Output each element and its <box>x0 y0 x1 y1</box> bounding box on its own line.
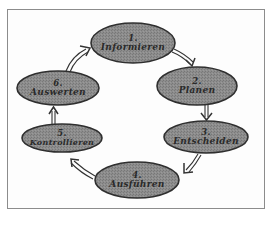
node-label: Ausführen <box>109 180 164 189</box>
node-ausfuehren: 4. Ausführen <box>95 163 179 197</box>
node-label: Auswerten <box>30 88 86 97</box>
node-auswerten: 6. Auswerten <box>17 72 99 104</box>
node-label: Kontrollieren <box>30 138 94 146</box>
node-label: Entscheiden <box>173 137 239 146</box>
arrow-kontrollieren-to-auswerten <box>49 107 58 124</box>
node-label: Informieren <box>101 43 165 52</box>
arrow-entscheiden-to-ausfuehren <box>184 154 201 173</box>
node-kontrollieren: 5. Kontrollieren <box>22 125 102 151</box>
node-label: Planen <box>179 86 216 95</box>
arrow-ausfuehren-to-kontrollieren <box>71 159 95 179</box>
node-informieren: 1. Informieren <box>91 25 175 61</box>
arrow-informieren-to-planen <box>172 49 195 66</box>
node-entscheiden: 3. Entscheiden <box>164 122 248 152</box>
arrow-planen-to-entscheiden <box>201 105 212 120</box>
arrow-auswerten-to-informieren <box>66 46 90 72</box>
node-planen: 2. Planen <box>157 69 237 103</box>
